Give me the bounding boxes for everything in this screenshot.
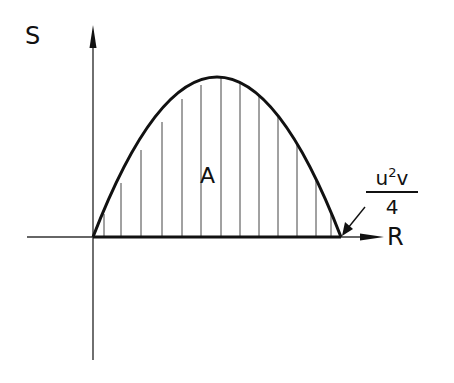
fraction-denominator: 4 bbox=[366, 196, 418, 218]
area-label: A bbox=[200, 163, 215, 188]
endpoint-pointer bbox=[348, 207, 365, 228]
x-axis-label: R bbox=[387, 223, 404, 251]
numerator-tail: v bbox=[397, 166, 409, 190]
parabola-curve bbox=[93, 77, 341, 237]
y-axis-arrowhead-icon bbox=[90, 25, 97, 48]
x-axis-arrowhead-icon bbox=[360, 234, 384, 241]
endpoint-fraction-label: u2v 4 bbox=[366, 162, 418, 218]
y-axis-label: S bbox=[25, 22, 40, 50]
fraction-numerator: u2v bbox=[366, 162, 418, 189]
fraction-bar bbox=[366, 191, 418, 193]
numerator-base: u bbox=[376, 166, 389, 190]
numerator-exponent: 2 bbox=[388, 165, 396, 180]
area-hatching bbox=[104, 77, 331, 237]
